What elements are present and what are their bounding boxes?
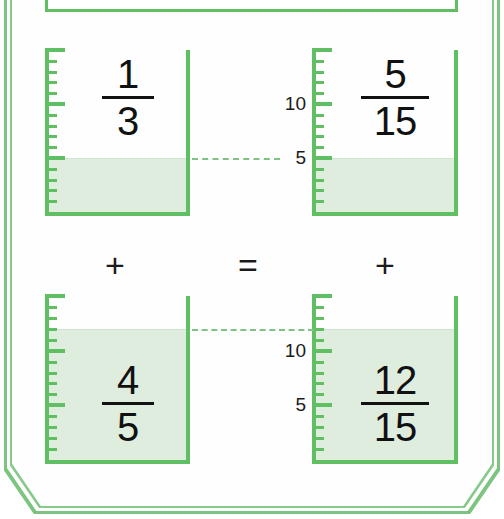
tick-mark-2 <box>45 189 57 192</box>
tick-mark-3 <box>312 426 324 429</box>
tick-mark-5 <box>45 403 65 407</box>
scale-label-10: 10 <box>264 94 306 113</box>
tick-mark-5 <box>312 403 332 407</box>
tick-mark-3 <box>45 179 57 182</box>
top-clipped-box <box>45 0 458 12</box>
fraction-label-top-right: 515 <box>358 54 432 142</box>
tick-mark-9 <box>312 114 324 117</box>
tick-mark-10 <box>45 102 65 106</box>
beaker-liquid <box>314 158 456 214</box>
tick-mark-7 <box>45 382 57 385</box>
fraction-label-bottom-left: 45 <box>91 360 165 448</box>
beaker-liquid <box>47 158 188 214</box>
scale-label-10: 10 <box>264 341 306 360</box>
tick-mark-15 <box>45 294 65 298</box>
tick-mark-3 <box>45 426 57 429</box>
beaker-wall-right <box>454 50 458 216</box>
tick-mark-12 <box>312 81 324 84</box>
tick-mark-3 <box>312 179 324 182</box>
tick-mark-15 <box>312 48 332 52</box>
tick-mark-11 <box>45 92 57 95</box>
tick-mark-8 <box>312 125 324 128</box>
fraction-denominator: 15 <box>358 407 432 448</box>
tick-mark-13 <box>45 317 57 320</box>
tick-mark-11 <box>312 339 324 342</box>
fraction-numerator: 1 <box>91 54 165 95</box>
tick-mark-1 <box>45 200 57 203</box>
tick-mark-8 <box>45 372 57 375</box>
diagram-canvas: 13105515451051215+=+ <box>0 0 504 519</box>
tick-mark-5 <box>45 156 65 160</box>
liquid-surface-line <box>47 329 188 330</box>
tick-mark-1 <box>312 200 324 203</box>
tick-mark-2 <box>45 437 57 440</box>
fraction-label-top-left: 13 <box>91 54 165 142</box>
tick-mark-13 <box>45 71 57 74</box>
tick-mark-14 <box>312 60 324 63</box>
tick-mark-4 <box>312 415 324 418</box>
tick-mark-8 <box>45 125 57 128</box>
tick-mark-15 <box>45 48 65 52</box>
tick-mark-1 <box>45 448 57 451</box>
tick-mark-9 <box>312 361 324 364</box>
beaker-base <box>45 212 190 216</box>
tick-mark-8 <box>312 372 324 375</box>
fraction-numerator: 5 <box>358 54 432 95</box>
tick-mark-15 <box>312 294 332 298</box>
beaker-wall-right <box>454 296 458 464</box>
tick-mark-13 <box>312 317 324 320</box>
tick-mark-4 <box>45 415 57 418</box>
fraction-label-bottom-right: 1215 <box>358 360 432 448</box>
tick-mark-7 <box>312 382 324 385</box>
connector-dashed-line-bottom <box>192 329 314 331</box>
tick-mark-4 <box>45 168 57 171</box>
tick-mark-7 <box>45 135 57 138</box>
beaker-wall-right <box>186 296 190 464</box>
tick-mark-9 <box>45 114 57 117</box>
beaker-base <box>45 460 190 464</box>
fraction-denominator: 15 <box>358 101 432 142</box>
tick-mark-13 <box>312 71 324 74</box>
operator-equals: = <box>228 248 268 282</box>
beaker-wall-right <box>186 50 190 216</box>
fraction-numerator: 4 <box>91 360 165 401</box>
tick-mark-10 <box>312 349 332 353</box>
tick-mark-2 <box>312 437 324 440</box>
scale-label-5: 5 <box>264 395 306 414</box>
tick-mark-6 <box>312 393 324 396</box>
tick-mark-14 <box>312 306 324 309</box>
operator-plus-right: + <box>365 248 405 282</box>
tick-mark-6 <box>45 146 57 149</box>
fraction-denominator: 3 <box>91 101 165 142</box>
liquid-surface-line <box>314 329 456 330</box>
liquid-surface-line <box>47 158 188 159</box>
tick-mark-14 <box>45 60 57 63</box>
tick-mark-2 <box>312 189 324 192</box>
connector-dashed-line-top <box>192 158 280 160</box>
tick-mark-4 <box>312 168 324 171</box>
tick-mark-7 <box>312 135 324 138</box>
beaker-base <box>312 460 458 464</box>
fraction-denominator: 5 <box>91 407 165 448</box>
operator-plus-left: + <box>95 248 135 282</box>
tick-mark-1 <box>312 448 324 451</box>
tick-mark-6 <box>45 393 57 396</box>
fraction-numerator: 12 <box>358 360 432 401</box>
tick-mark-12 <box>45 81 57 84</box>
tick-mark-11 <box>312 92 324 95</box>
liquid-surface-line <box>314 158 456 159</box>
tick-mark-14 <box>45 306 57 309</box>
tick-mark-10 <box>312 102 332 106</box>
tick-mark-5 <box>312 156 332 160</box>
tick-mark-11 <box>45 339 57 342</box>
tick-mark-6 <box>312 146 324 149</box>
tick-mark-12 <box>45 328 57 331</box>
tick-mark-10 <box>45 349 65 353</box>
tick-mark-9 <box>45 361 57 364</box>
beaker-base <box>312 212 458 216</box>
